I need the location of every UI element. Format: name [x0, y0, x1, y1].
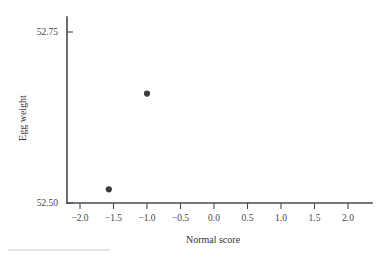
- x-axis-ticks: −2.0−1.5−1.0−0.50.00.51.01.52.0: [71, 203, 354, 223]
- y-tick-label: 52.75: [37, 27, 59, 37]
- x-tick-label: −1.0: [138, 213, 155, 223]
- x-tick-label: −0.5: [172, 213, 189, 223]
- x-tick-label: 1.0: [275, 213, 287, 223]
- x-tick-label: 0.5: [242, 213, 254, 223]
- x-tick-label: −2.0: [71, 213, 88, 223]
- scatter-plot-figure: 52.5052.7553.0053.2553.50 −2.0−1.5−1.0−0…: [0, 0, 384, 254]
- data-point: [144, 90, 150, 96]
- plot-canvas: 52.5052.7553.0053.2553.50 −2.0−1.5−1.0−0…: [0, 0, 384, 254]
- x-tick-label: 2.0: [342, 213, 354, 223]
- data-point: [106, 186, 112, 192]
- x-axis-title: Normal score: [186, 234, 241, 245]
- axes: [67, 17, 372, 203]
- y-tick-label: 52.50: [37, 198, 59, 208]
- x-tick-label: −1.5: [105, 213, 122, 223]
- x-tick-label: 0.0: [208, 213, 220, 223]
- x-tick-label: 1.5: [309, 213, 321, 223]
- y-axis-title: Egg weight: [17, 95, 28, 141]
- data-points: [106, 0, 323, 192]
